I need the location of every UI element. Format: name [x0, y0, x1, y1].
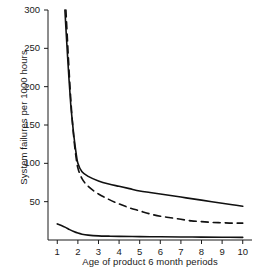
- x-axis-tick-label: 7: [173, 246, 189, 257]
- y-axis-ticks: [44, 10, 48, 202]
- x-axis-ticks: [57, 240, 242, 244]
- chart-line-lower-solid-curve: [57, 224, 242, 237]
- x-axis-tick-label: 8: [194, 246, 210, 257]
- y-axis-tick-label: 150: [10, 119, 40, 130]
- y-axis-title: System failures per 1000 hours: [18, 33, 29, 203]
- x-axis-tick-label: 1: [49, 246, 65, 257]
- x-axis-tick-label: 3: [90, 246, 106, 257]
- x-axis-tick-label: 5: [132, 246, 148, 257]
- y-axis-tick-label: 200: [10, 81, 40, 92]
- y-axis-tick-label: 100: [10, 157, 40, 168]
- chart-axes: [48, 10, 252, 240]
- chart-line-upper-solid-curve: [65, 10, 243, 206]
- chart-plot-area: [0, 0, 258, 275]
- y-axis-tick-label: 50: [10, 196, 40, 207]
- x-axis-tick-label: 10: [235, 246, 251, 257]
- x-axis-title: Age of product 6 month periods: [48, 256, 252, 267]
- chart-line-middle-dashed-curve: [66, 10, 243, 223]
- chart-container: System failures per 1000 hours Age of pr…: [0, 0, 258, 275]
- y-axis-tick-label: 300: [10, 4, 40, 15]
- x-axis-tick-label: 9: [214, 246, 230, 257]
- chart-series-group: [57, 10, 242, 237]
- x-axis-tick-label: 6: [152, 246, 168, 257]
- x-axis-tick-label: 4: [111, 246, 127, 257]
- x-axis-tick-label: 2: [70, 246, 86, 257]
- y-axis-tick-label: 250: [10, 42, 40, 53]
